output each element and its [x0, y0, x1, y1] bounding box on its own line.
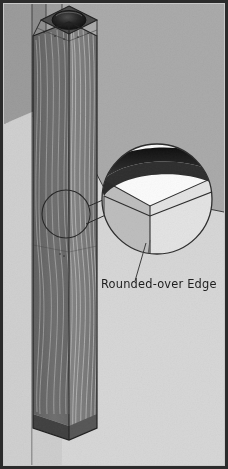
illustration-canvas: Rounded-over Edge — [0, 0, 228, 469]
illustration-figure: Rounded-over Edge — [0, 0, 228, 469]
paper-highlight-overlay — [4, 4, 224, 465]
